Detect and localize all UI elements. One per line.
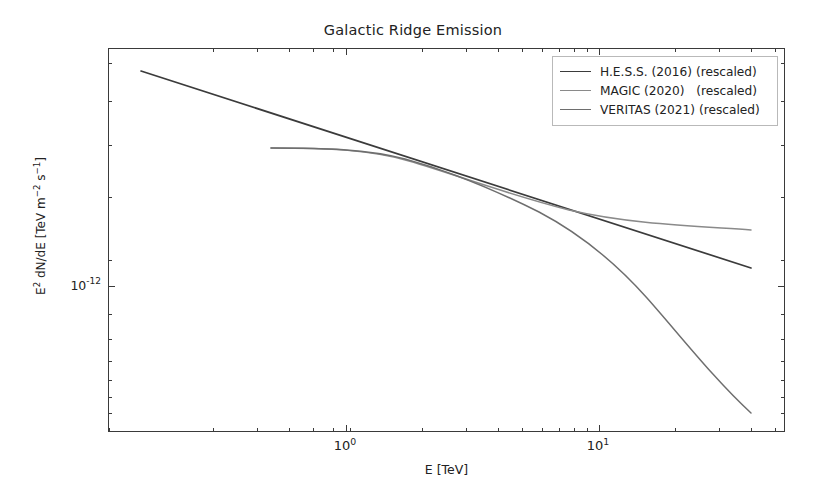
y-axis-right-minor-tick [781,101,784,102]
x-axis-minor-tick [257,428,258,431]
y-tick-label-group: 10-12 [0,0,101,489]
x-axis-label: E [TeV] [108,462,785,477]
x-axis-top-minor-tick [587,49,588,52]
y-axis-right-minor-tick [781,314,784,315]
x-axis-top-major-tick [346,49,347,55]
x-axis-minor-tick [109,428,110,431]
y-axis-right-major-tick [778,286,784,287]
x-axis-top-minor-tick [213,49,214,52]
x-axis-minor-tick [775,428,776,431]
x-axis-top-minor-tick [422,49,423,52]
series-line-veritas [271,148,751,413]
x-tick-label-base: 10 [587,438,604,453]
y-axis-minor-tick [109,413,112,414]
legend-line-icon [560,109,591,110]
x-axis-minor-tick [587,428,588,431]
y-axis-right-minor-tick [781,197,784,198]
y-axis-minor-tick [109,380,112,381]
x-axis-top-minor-tick [498,49,499,52]
x-axis-top-minor-tick [289,49,290,52]
y-axis-right-minor-tick [781,413,784,414]
y-axis-right-minor-tick [781,380,784,381]
x-axis-minor-tick [498,428,499,431]
x-tick-label-base: 10 [334,438,351,453]
y-axis-right-minor-tick [781,397,784,398]
x-axis-minor-tick [675,428,676,431]
x-axis-minor-tick [574,428,575,431]
x-axis-major-tick [346,425,347,431]
legend-entry-magic[interactable]: MAGIC (2020) (rescaled) [560,81,770,100]
y-tick-label-base: 10 [70,278,86,293]
x-tick-label-exponent: 1 [603,436,609,447]
legend-line-icon [560,71,591,72]
x-axis-minor-tick [751,428,752,431]
x-axis-top-minor-tick [751,49,752,52]
y-axis-minor-tick [109,145,112,146]
x-axis-minor-tick [289,428,290,431]
x-axis-top-minor-tick [559,49,560,52]
x-axis-top-minor-tick [675,49,676,52]
legend-entry-hess[interactable]: H.E.S.S. (2016) (rescaled) [560,62,770,81]
page-title: Galactic Ridge Emission [0,22,826,38]
x-axis-minor-tick [350,428,351,431]
x-axis-minor-tick [333,428,334,431]
y-axis-major-tick [109,286,115,287]
x-axis-top-minor-tick [542,49,543,52]
legend-label: MAGIC (2020) (rescaled) [600,84,757,98]
x-axis-top-minor-tick [466,49,467,52]
y-axis-right-minor-tick [781,145,784,146]
y-tick-label: 10-12 [70,278,101,293]
x-axis-minor-tick [719,428,720,431]
y-axis-minor-tick [109,397,112,398]
plot-area: H.E.S.S. (2016) (rescaled) MAGIC (2020) … [108,48,785,432]
x-axis-minor-tick [313,428,314,431]
x-axis-minor-tick [559,428,560,431]
y-axis-right-minor-tick [781,339,784,340]
x-axis-minor-tick [213,428,214,431]
y-axis-minor-tick [109,260,112,261]
y-axis-right-minor-tick [781,63,784,64]
x-axis-top-minor-tick [719,49,720,52]
legend-line-icon [560,90,591,91]
legend-label: VERITAS (2021) (rescaled) [600,103,760,117]
legend-entry-veritas[interactable]: VERITAS (2021) (rescaled) [560,100,770,119]
x-tick-label: 100 [334,438,357,453]
x-axis-top-minor-tick [313,49,314,52]
x-axis-minor-tick [542,428,543,431]
x-axis-minor-tick [522,428,523,431]
x-axis-major-tick [599,425,600,431]
x-tick-label-exponent: 0 [350,436,356,447]
series-line-magic [271,148,751,230]
figure-canvas: Galactic Ridge Emission E2 dN/dE [TeV m−… [0,0,826,489]
y-axis-minor-tick [109,197,112,198]
y-axis-right-minor-tick [781,361,784,362]
x-axis-top-major-tick [599,49,600,55]
legend-label: H.E.S.S. (2016) (rescaled) [600,65,757,79]
y-axis-minor-tick [109,63,112,64]
y-axis-right-minor-tick [781,260,784,261]
x-axis-minor-tick [422,428,423,431]
x-axis-top-minor-tick [257,49,258,52]
legend[interactable]: H.E.S.S. (2016) (rescaled) MAGIC (2020) … [552,56,778,126]
y-axis-minor-tick [109,314,112,315]
x-axis-top-minor-tick [522,49,523,52]
x-axis-top-minor-tick [574,49,575,52]
x-axis-minor-tick [466,428,467,431]
y-axis-minor-tick [109,361,112,362]
y-axis-minor-tick [109,339,112,340]
x-tick-label: 101 [587,438,610,453]
y-tick-label-exponent: -12 [86,276,101,286]
x-axis-top-minor-tick [775,49,776,52]
x-axis-top-minor-tick [333,49,334,52]
y-axis-minor-tick [109,101,112,102]
